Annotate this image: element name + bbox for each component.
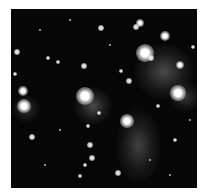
star — [89, 155, 95, 161]
star — [176, 61, 184, 69]
star — [119, 69, 123, 73]
star — [81, 63, 87, 69]
star — [86, 124, 90, 128]
star-cluster-photo — [11, 9, 197, 188]
star — [14, 49, 20, 55]
star — [169, 174, 171, 176]
star — [59, 129, 61, 131]
star — [115, 170, 121, 176]
star — [191, 45, 195, 49]
star — [44, 164, 46, 166]
star — [148, 55, 154, 61]
star — [18, 86, 28, 96]
star — [156, 104, 160, 108]
star — [56, 60, 60, 64]
star — [160, 31, 170, 41]
star — [46, 56, 50, 60]
star — [87, 142, 93, 148]
star — [13, 72, 17, 76]
star — [69, 19, 71, 21]
star — [17, 99, 31, 113]
star — [78, 174, 82, 178]
star — [120, 114, 134, 128]
star — [149, 159, 151, 161]
star — [126, 78, 132, 84]
star — [133, 24, 139, 30]
star — [109, 44, 111, 46]
star — [29, 134, 35, 140]
star — [76, 87, 94, 105]
star — [98, 25, 104, 31]
star — [83, 163, 87, 167]
star — [170, 85, 186, 101]
star — [97, 111, 101, 115]
star — [189, 119, 191, 121]
star — [173, 138, 177, 142]
star — [39, 29, 41, 31]
